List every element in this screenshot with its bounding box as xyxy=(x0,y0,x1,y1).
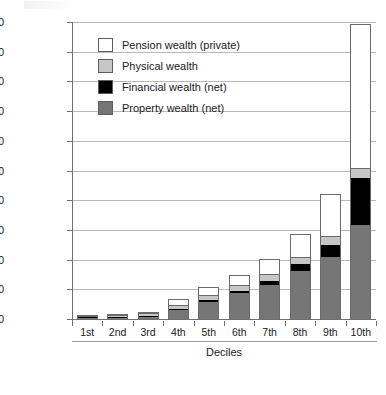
segment-property-wealth xyxy=(320,257,341,319)
x-tick-label: 5th xyxy=(201,326,216,338)
bar-group xyxy=(168,299,189,319)
y-tick-label: 0 xyxy=(0,313,4,325)
y-tick-label: 3,200,000 xyxy=(0,75,4,87)
bar-group xyxy=(350,24,371,319)
segment-property-wealth xyxy=(290,271,311,319)
x-axis-baseline-rule xyxy=(72,341,377,342)
segment-property-wealth xyxy=(77,318,98,319)
y-tick-label: 1,200,000 xyxy=(0,224,4,236)
x-tick-mark xyxy=(376,321,377,326)
x-tick-mark xyxy=(254,321,255,326)
segment-financial-wealth xyxy=(320,245,341,258)
bar-group xyxy=(229,275,250,319)
segment-physical-wealth xyxy=(320,237,341,244)
segment-property-wealth xyxy=(198,302,219,319)
y-tick-label: 2,000,000 xyxy=(0,165,4,177)
segment-pension-wealth xyxy=(320,194,341,238)
x-tick-label: 10th xyxy=(351,326,371,338)
bar-group xyxy=(198,287,219,319)
x-tick-mark xyxy=(72,321,73,326)
legend: Pension wealth (private)Physical wealthF… xyxy=(98,34,240,118)
x-tick-label: 7th xyxy=(262,326,277,338)
bar-group xyxy=(107,314,128,319)
cropped-title-artifact xyxy=(24,1,76,9)
legend-item-label: Property wealth (net) xyxy=(122,102,224,114)
y-tick-label: 4,000,000 xyxy=(0,16,4,28)
bar-group xyxy=(259,259,280,319)
bar-group xyxy=(77,315,98,319)
legend-item-label: Pension wealth (private) xyxy=(122,39,240,51)
white-square-icon xyxy=(98,38,113,52)
gray-square-icon xyxy=(98,101,113,115)
y-tick-label: 400,000 xyxy=(0,283,4,295)
x-axis-title: Deciles xyxy=(72,346,376,358)
y-tick-label: 2,400,000 xyxy=(0,135,4,147)
x-tick-label: 8th xyxy=(293,326,308,338)
y-tick-label: 2,800,000 xyxy=(0,105,4,117)
x-tick-label: 1st xyxy=(80,326,94,338)
x-tick-mark xyxy=(346,321,347,326)
x-tick-mark xyxy=(285,321,286,326)
y-tick-label: 800,000 xyxy=(0,254,4,266)
light-gray-square-icon xyxy=(98,59,113,73)
segment-pension-wealth xyxy=(168,299,189,306)
segment-property-wealth xyxy=(107,318,128,319)
legend-item-label: Physical wealth xyxy=(122,60,198,72)
segment-pension-wealth xyxy=(198,287,219,297)
bar-group xyxy=(290,234,311,319)
segment-pension-wealth xyxy=(290,234,311,258)
legend-item-label: Financial wealth (net) xyxy=(122,81,227,93)
segment-pension-wealth xyxy=(229,275,250,286)
x-tick-mark xyxy=(194,321,195,326)
segment-property-wealth xyxy=(168,310,189,319)
legend-item: Financial wealth (net) xyxy=(98,76,240,97)
x-tick-mark xyxy=(224,321,225,326)
segment-financial-wealth xyxy=(350,178,371,226)
x-tick-label: 2nd xyxy=(109,326,127,338)
segment-property-wealth xyxy=(138,317,159,319)
x-tick-label: 4th xyxy=(171,326,186,338)
x-tick-label: 6th xyxy=(232,326,247,338)
segment-financial-wealth xyxy=(290,264,311,271)
segment-property-wealth xyxy=(259,285,280,319)
bar-group xyxy=(138,312,159,319)
bar-group xyxy=(320,194,341,319)
legend-item: Physical wealth xyxy=(98,55,240,76)
y-tick-label: 3,600,000 xyxy=(0,46,4,58)
wealth-by-decile-chart: 0400,000800,0001,200,0001,600,0002,000,0… xyxy=(0,0,386,395)
x-tick-mark xyxy=(133,321,134,326)
segment-property-wealth xyxy=(350,225,371,319)
legend-item: Pension wealth (private) xyxy=(98,34,240,55)
x-tick-label: 3rd xyxy=(140,326,155,338)
y-tick-label: 1,600,000 xyxy=(0,194,4,206)
x-tick-mark xyxy=(315,321,316,326)
x-tick-mark xyxy=(102,321,103,326)
legend-item: Property wealth (net) xyxy=(98,97,240,118)
segment-pension-wealth xyxy=(350,24,371,170)
segment-property-wealth xyxy=(229,293,250,319)
segment-physical-wealth xyxy=(350,169,371,178)
segment-pension-wealth xyxy=(259,259,280,275)
x-tick-label: 9th xyxy=(323,326,338,338)
x-tick-mark xyxy=(163,321,164,326)
black-square-icon xyxy=(98,80,113,94)
